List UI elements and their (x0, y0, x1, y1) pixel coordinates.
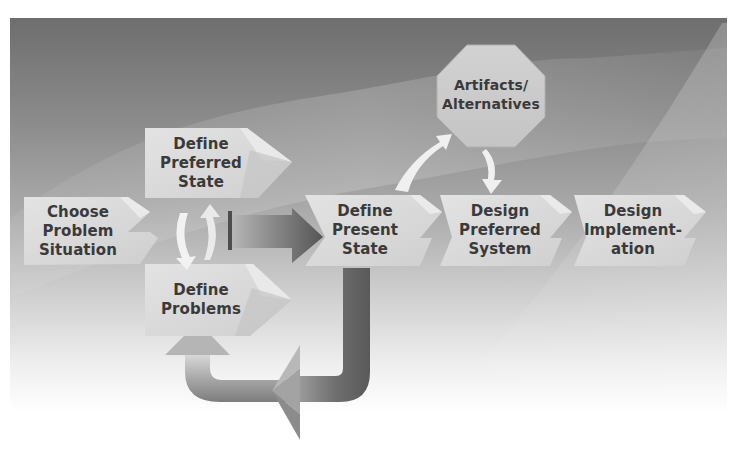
big-arrow-to-present-state (228, 208, 323, 263)
arrow-preferred-to-problems (176, 213, 196, 270)
arrow-artifacts-to-system (482, 149, 502, 194)
arrow-problems-to-preferred (200, 204, 220, 260)
node-choose-problem-label: Choose Problem Situation (24, 203, 132, 260)
node-preferred-system-label: Design Preferred System (445, 202, 555, 259)
node-present-state-label: Define Present State (310, 202, 420, 259)
arrow-present-to-artifacts (395, 134, 452, 192)
node-preferred-state-label: Define Preferred State (145, 135, 257, 192)
node-artifacts-label: Artifacts/ Alternatives (437, 76, 545, 114)
node-implementation-label: Design Implement- ation (578, 202, 688, 259)
node-problems-label: Define Problems (145, 281, 257, 319)
